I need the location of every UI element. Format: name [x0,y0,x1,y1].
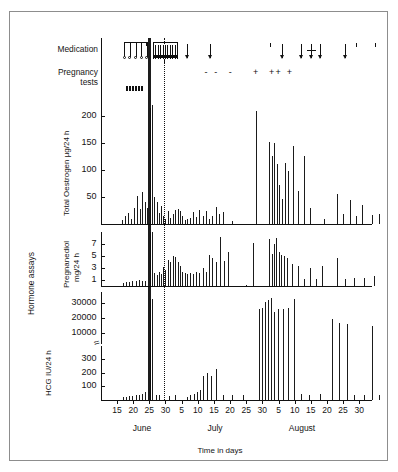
hcg-bar [278,346,279,400]
hcg-bar [294,299,295,354]
oestrogen-bar [185,220,186,224]
figure-root: Hormone assays Medication Pregnancy test… [0,0,398,472]
hcg-bar [271,298,272,354]
hcg-bar [262,346,263,400]
hcg-bar [288,346,289,400]
xaxis-tick [214,401,215,404]
hcg-bar [339,346,340,400]
hcg-lower-ytick [101,359,105,360]
pregnanediol-bar [212,258,213,286]
pregnanediol-bar [209,255,210,286]
oestrogen-bar [170,218,171,224]
pregnanediol-bar [157,275,158,286]
xaxis-tick [295,401,296,404]
oestrogen-bar [232,221,233,224]
oestrogen-ytick [101,116,105,117]
month-label-july: July [195,424,235,433]
pregnanediol-bar [276,238,277,286]
pregnanediol-bar [142,281,143,286]
pregnanediol-bar [145,281,146,286]
oestrogen-bar [372,215,373,224]
pregnanediol-bar [203,268,204,286]
oestrogen-bar [298,191,299,224]
oestrogen-bar [272,156,273,224]
pregnancy-test-symbol: + [269,68,274,77]
pregnanediol-bar [193,274,194,286]
hcg-bar [175,395,176,400]
reference-dotted-line [164,38,165,400]
oestrogen-bar [350,200,351,224]
medication-dose-circle [123,56,126,59]
medication-stem [130,42,131,57]
pregnanediol-bar [284,256,285,286]
oestrogen-bar [157,202,158,224]
pregnancy-test-symbol: - [229,68,232,77]
hcg-bar [169,396,170,400]
medication-stem [164,59,165,63]
pregnancy-test-symbol: + [276,68,281,77]
hcg-bar [274,312,275,354]
hcg-bar [223,395,224,400]
oestrogen-bar [362,205,363,224]
pregnanediol-bar [281,255,282,286]
medication-stem [141,42,142,57]
pregnanediol-bar [129,282,130,286]
medication-arrow [187,44,188,58]
pregnanediol-bar [272,254,273,286]
pregnanediol-axis-title-line2: mg/24 h [72,253,81,282]
pregnanediol-y-axis [101,232,102,287]
pregnancy-tests-row-label-line2: tests [26,78,98,86]
hcg-bar [364,395,365,400]
pregnancy-tests-row-label-line1: Pregnancy [26,68,98,76]
hcg-bar [145,392,146,400]
hcg-bar [129,396,130,400]
hcg-upper-ytick [101,318,105,319]
hcg-bar [243,395,244,400]
pregnanediol-bar [182,272,183,286]
hcg-bar [197,392,198,400]
hcg-ytick-label-300: 300 [69,354,97,363]
oestrogen-bar [154,197,155,224]
pregnancy-test-symbol: + [287,68,292,77]
medication-arrow [282,44,283,58]
oestrogen-bar [206,211,207,224]
oestrogen-ytick [101,170,105,171]
pregnanediol-bar [274,244,275,286]
xaxis-tick [149,401,150,404]
pregnanediol-bar [206,272,207,286]
pregnanediol-bar [224,261,225,286]
pregnanediol-bar [374,276,375,286]
oestrogen-bar [152,105,153,224]
oestrogen-bar [187,219,188,224]
pregnanediol-bar [199,273,200,286]
oestrogen-bar [324,219,325,224]
hcg-bar [156,395,157,400]
xaxis-tick [198,401,199,404]
pregnanediol-bar [159,272,160,286]
pregnanediol-bar [310,268,311,286]
oestrogen-bar [196,217,197,224]
hcg-bar [372,326,373,354]
xaxis-tick [246,401,247,404]
hcg-bar [262,308,263,354]
pregnanediol-bar [161,274,162,286]
pregnanediol-bar [139,280,140,286]
oestrogen-bar [159,213,160,224]
oestrogen-bar [125,216,126,224]
xaxis-tick [343,401,344,404]
pregnanediol-bar [316,279,317,286]
xaxis-tick [279,401,280,404]
hcg-bar [152,346,153,400]
pregnanediol-bar [279,252,280,286]
oestrogen-bar [288,171,289,224]
pregnanediol-bar [154,273,155,286]
pregnancy-test-symbol: - [214,68,217,77]
oestrogen-bar [282,199,283,224]
oestrogen-bar [212,216,213,224]
hcg-bar [271,346,272,400]
hcg-bar [265,302,266,354]
medication-arrow [210,44,211,58]
hcg-bar [211,376,212,400]
hcg-bar [301,394,302,400]
pregnanediol-bar [292,264,293,286]
